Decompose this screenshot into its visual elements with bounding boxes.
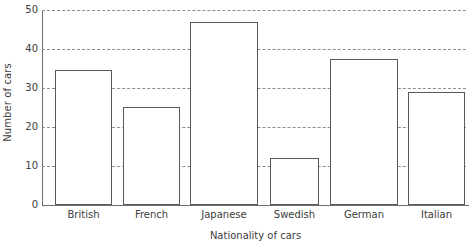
y-tick-40: 40	[18, 44, 38, 54]
bar-japanese	[190, 22, 258, 205]
y-tick-0: 0	[18, 200, 38, 210]
bar-chart: Number of cars 50 40 30 20 10 0 British …	[0, 0, 469, 250]
bar-italian	[408, 92, 465, 205]
plot-area	[42, 10, 469, 206]
x-tick-german: German	[330, 209, 398, 221]
x-tick-italian: Italian	[408, 209, 465, 221]
bar-british	[55, 70, 112, 205]
x-axis-line	[42, 205, 469, 206]
bar-german	[330, 59, 398, 205]
y-axis-title: Number of cars	[0, 0, 16, 205]
bar-french	[123, 107, 180, 205]
gridline-50	[42, 10, 466, 11]
x-axis-tick-labels: British French Japanese Swedish German I…	[42, 209, 469, 223]
bar-swedish	[270, 158, 319, 205]
y-tick-50: 50	[18, 5, 38, 15]
x-tick-swedish: Swedish	[266, 209, 323, 221]
x-axis-title: Nationality of cars	[42, 230, 469, 242]
y-axis-line	[42, 10, 43, 206]
x-tick-japanese: Japanese	[190, 209, 258, 221]
y-tick-20: 20	[18, 122, 38, 132]
x-tick-british: British	[55, 209, 112, 221]
y-tick-10: 10	[18, 161, 38, 171]
y-tick-30: 30	[18, 83, 38, 93]
y-axis-tick-labels: 50 40 30 20 10 0	[16, 0, 38, 250]
x-tick-french: French	[123, 209, 180, 221]
